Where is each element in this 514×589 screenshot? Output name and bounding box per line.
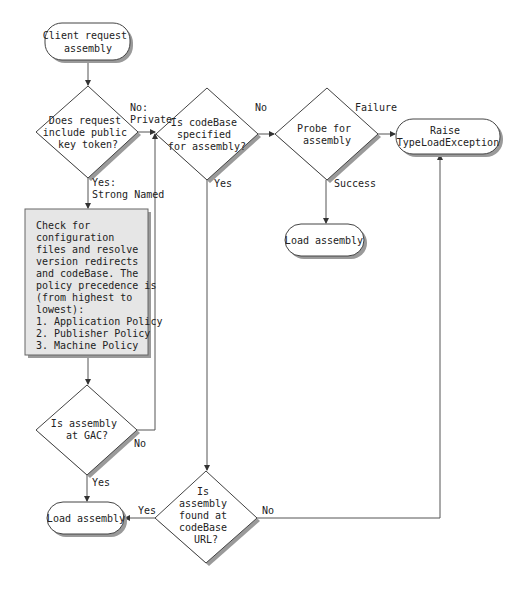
load-gac-text: Load assembly (47, 513, 125, 524)
start-terminal (45, 23, 130, 60)
label-probe-success: Success (334, 178, 376, 189)
label-gac-no: No (134, 438, 146, 449)
codebase-text: Is codeBase specified for assembly? (168, 117, 246, 152)
label-probe-failure: Failure (355, 102, 397, 113)
probe-text: Probe for assembly (297, 123, 357, 146)
label-codebase-yes: Yes (214, 178, 232, 189)
label-gac-yes: Yes (92, 477, 110, 488)
label-codebase-no: No (255, 102, 267, 113)
label-url-yes: Yes (138, 505, 156, 516)
label-url-no: No (262, 505, 274, 516)
label-no-private: No: Private (130, 102, 172, 125)
flowchart-diagram: Client request assembly Does request inc… (0, 0, 514, 589)
edge-url-no (257, 155, 440, 518)
label-yes-strong-named: Yes: Strong Named (92, 177, 164, 200)
load-probe-text: Load assembly (285, 235, 363, 246)
